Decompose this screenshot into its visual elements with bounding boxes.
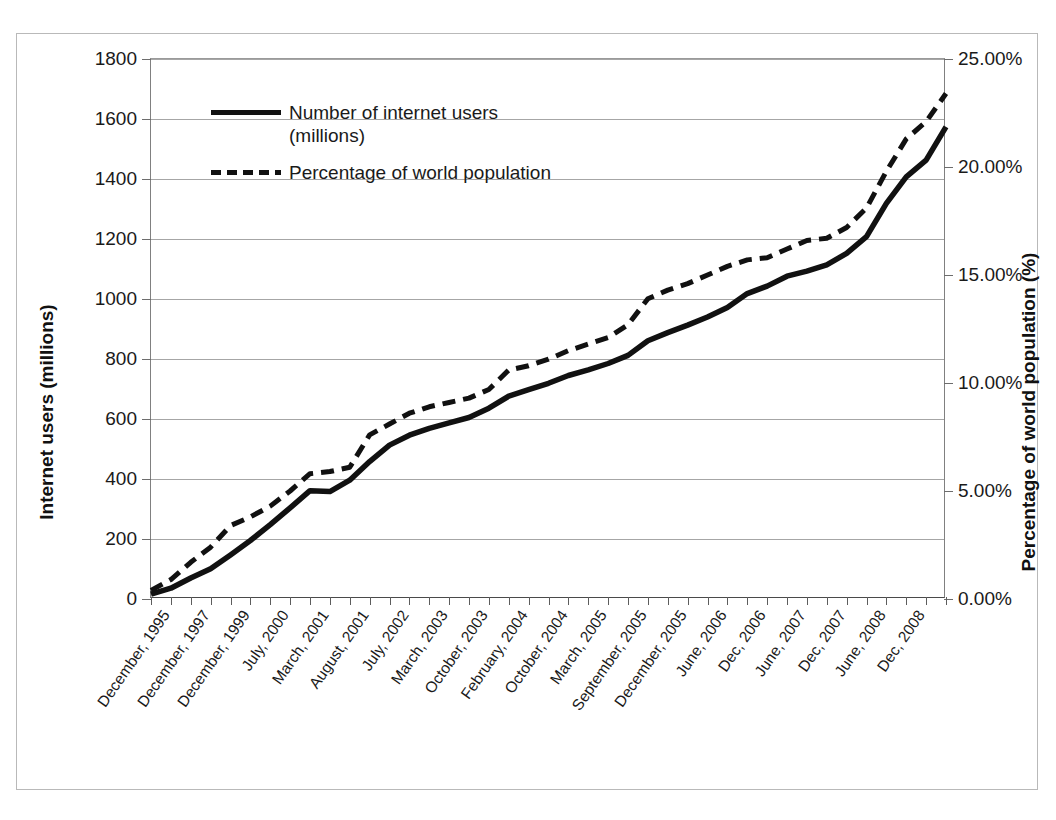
right-axis-tick-label: 20.00%	[958, 156, 1022, 178]
legend-label-users: Number of internet users (millions)	[289, 101, 498, 147]
left-axis-tick-label: 1800	[95, 48, 137, 70]
left-axis-tick	[142, 359, 151, 360]
left-axis-tick	[142, 119, 151, 120]
left-axis-tick-label: 400	[105, 468, 137, 490]
left-axis-tick	[142, 299, 151, 300]
legend-item-percentage: Percentage of world population	[209, 161, 569, 184]
solid-line-swatch-icon	[209, 101, 283, 121]
legend-label-users-line2: (millions)	[289, 125, 365, 146]
left-axis-tick	[142, 479, 151, 480]
right-axis-tick-label: 5.00%	[958, 480, 1012, 502]
left-axis-tick	[142, 539, 151, 540]
chart-legend: Number of internet users (millions) Perc…	[209, 101, 569, 198]
right-axis-tick-label: 15.00%	[958, 264, 1022, 286]
left-axis-tick	[142, 59, 151, 60]
left-axis-tick	[142, 419, 151, 420]
left-axis-tick-label: 1200	[95, 228, 137, 250]
left-axis-tick-label: 1000	[95, 288, 137, 310]
left-axis-tick-label: 1400	[95, 168, 137, 190]
x-axis-tick	[946, 597, 947, 605]
right-axis-tick-label: 10.00%	[958, 372, 1022, 394]
legend-label-users-line1: Number of internet users	[289, 102, 498, 123]
left-axis-tick	[142, 239, 151, 240]
left-axis-title: Internet users (millions)	[36, 304, 58, 519]
dashed-line-swatch-icon	[209, 161, 283, 181]
legend-label-percentage: Percentage of world population	[289, 161, 551, 184]
left-axis-tick	[142, 599, 151, 600]
left-axis-tick-label: 600	[105, 408, 137, 430]
right-axis-tick-label: 25.00%	[958, 48, 1022, 70]
left-axis-tick-label: 0	[126, 588, 137, 610]
left-axis-tick-label: 1600	[95, 108, 137, 130]
plot-area: 020040060080010001200140016001800 0.00%5…	[150, 58, 945, 598]
right-axis-tick-label: 0.00%	[958, 588, 1012, 610]
left-axis-tick	[142, 179, 151, 180]
chart-figure: Internet users (millions) Percentage of …	[16, 33, 1038, 790]
left-axis-tick-label: 800	[105, 348, 137, 370]
legend-item-users: Number of internet users (millions)	[209, 101, 569, 147]
left-axis-tick-label: 200	[105, 528, 137, 550]
right-axis-title: Percentage of world population (%)	[1018, 252, 1040, 571]
